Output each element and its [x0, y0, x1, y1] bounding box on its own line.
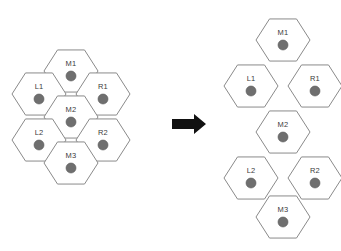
hex-cell-transformation-diagram: M1L1R1M2L2R2M3 M1L1R1M2L2R2M3 [0, 0, 341, 251]
hex-cell-label: M2 [278, 120, 289, 129]
hex-cell-label: R1 [310, 74, 320, 83]
flower-hex-cluster: M1L1R1M2L2R2M3 [12, 50, 130, 184]
hex-cell-m2: M2 [256, 111, 310, 153]
hex-cell-label: R2 [98, 128, 108, 137]
hex-cell-label: L2 [247, 166, 256, 175]
hex-cell-m3: M3 [256, 196, 310, 238]
cell-center-dot-icon [66, 117, 76, 127]
cell-center-dot-icon [66, 71, 76, 81]
arrow-right-icon [172, 114, 206, 134]
diagram-canvas: M1L1R1M2L2R2M3 M1L1R1M2L2R2M3 [0, 0, 341, 251]
cell-center-dot-icon [34, 94, 44, 104]
hex-cell-m1: M1 [256, 19, 310, 61]
chain-hex-cluster: M1L1R1M2L2R2M3 [224, 19, 341, 238]
hex-cell-label: M2 [66, 105, 77, 114]
cell-center-dot-icon [310, 86, 320, 96]
hex-cell-label: M1 [278, 28, 289, 37]
cell-center-dot-icon [246, 86, 256, 96]
hex-cell-l2: L2 [224, 157, 278, 199]
hex-cell-label: L1 [247, 74, 256, 83]
cell-center-dot-icon [66, 163, 76, 173]
cell-center-dot-icon [278, 132, 288, 142]
hex-cell-label: R2 [310, 166, 320, 175]
cell-center-dot-icon [310, 178, 320, 188]
cell-center-dot-icon [98, 140, 108, 150]
hex-cell-label: M3 [66, 151, 77, 160]
hex-cell-r2: R2 [288, 157, 341, 199]
transformation-arrow [172, 114, 206, 134]
cell-center-dot-icon [278, 217, 288, 227]
hex-cell-l1: L1 [224, 65, 278, 107]
hex-cell-r1: R1 [288, 65, 341, 107]
hex-cell-label: L1 [35, 82, 44, 91]
cell-center-dot-icon [278, 40, 288, 50]
cell-center-dot-icon [98, 94, 108, 104]
hex-cell-label: M3 [278, 205, 289, 214]
cell-center-dot-icon [34, 140, 44, 150]
cell-center-dot-icon [246, 178, 256, 188]
hex-cell-label: M1 [66, 59, 77, 68]
hex-cell-label: R1 [98, 82, 108, 91]
hex-cell-label: L2 [35, 128, 44, 137]
